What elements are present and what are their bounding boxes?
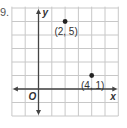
y-axis-label: y [42,7,49,18]
point-label: (4, 1) [81,80,104,91]
y-axis-down-arrow-icon [36,110,41,115]
point-label: (2, 5) [54,26,77,37]
data-point [89,73,94,78]
origin-label: O [29,91,37,102]
data-point [63,19,68,24]
x-axis-label: x [109,91,116,102]
data-points: (2, 5)(4, 1) [54,19,104,90]
y-axis-up-arrow-icon [36,9,41,14]
x-axis-left-arrow-icon [13,87,18,92]
coordinate-plane: (2, 5)(4, 1) yxO [0,0,127,128]
